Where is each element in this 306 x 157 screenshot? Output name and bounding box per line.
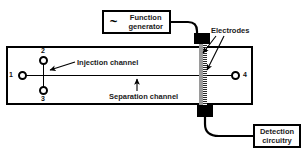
function-generator-label: Function generator — [128, 13, 163, 32]
reservoir-port-3-number: 3 — [41, 95, 45, 103]
reservoir-port-1[interactable] — [18, 71, 27, 80]
electrodes-label: Electrodes — [211, 26, 249, 35]
microfluidic-chip-schematic: Function generator ~ Detection circuitry… — [0, 0, 306, 157]
reservoir-port-3[interactable] — [39, 86, 48, 95]
wire-electrode-to-detection-circuitry — [205, 116, 254, 136]
detection-circuitry-label: Detection circuitry — [260, 127, 294, 146]
sine-wave-icon: ~ — [107, 16, 120, 28]
reservoir-port-2-number: 2 — [41, 47, 45, 55]
reservoir-port-4-number: 4 — [243, 71, 247, 79]
electrode-contact-pad-bottom — [197, 105, 213, 117]
electrode-contact-pad-top — [194, 33, 210, 44]
reservoir-port-1-number: 1 — [9, 71, 13, 79]
electrode-strip-downstream — [203, 43, 207, 105]
reservoir-port-2[interactable] — [39, 56, 48, 65]
reservoir-port-4[interactable] — [231, 71, 240, 80]
separation-channel-label: Separation channel — [109, 92, 178, 101]
injection-channel-label: Injection channel — [77, 58, 138, 67]
detection-circuitry-box[interactable]: Detection circuitry — [253, 124, 301, 148]
